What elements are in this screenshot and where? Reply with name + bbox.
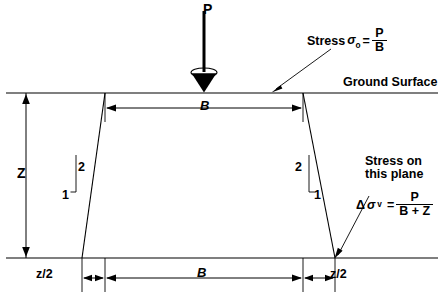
stress-distribution-figure: P Stress σo = P B Ground Surface B Z 2 1… <box>0 0 444 297</box>
dimension-arrow-zhalf-right-start <box>304 275 313 282</box>
stress-on-plane-annotation: Stress on this plane <box>365 155 423 181</box>
leader-arrowhead-stress-sigma <box>272 85 283 92</box>
equals-sign-sigma: = <box>363 35 370 48</box>
sigma-denominator: B <box>372 41 387 54</box>
dimension-label-b-top: B <box>200 99 209 113</box>
sigma-symbol: σo <box>347 34 360 50</box>
slope-triangle-right <box>309 155 315 192</box>
spread-line-left <box>82 93 105 258</box>
equals-sign-delta: = <box>384 199 394 212</box>
dimension-label-zhalf-left: z/2 <box>36 268 53 281</box>
dimension-arrow-b-top-right <box>292 104 302 111</box>
dimension-arrow-zhalf-left-end <box>95 275 104 282</box>
slope-label-right-horizontal: 1 <box>314 189 321 202</box>
delta-denominator: B + Z <box>396 205 433 218</box>
sigma-subscript: o <box>356 40 361 49</box>
slope-triangle-left <box>71 155 77 192</box>
dimension-arrow-b-top-left <box>106 104 116 111</box>
slope-label-left-vertical: 2 <box>78 161 85 174</box>
delta-fraction: P B + Z <box>396 191 433 218</box>
dimension-label-zhalf-right: z/2 <box>330 268 347 281</box>
dimension-arrow-b-bottom-right <box>292 275 302 282</box>
delta-numerator: P <box>396 191 433 205</box>
stress-sigma-o-annotation: Stress σo = P B <box>307 28 387 55</box>
delta-symbol: Δ <box>356 199 365 212</box>
slope-label-left-horizontal: 1 <box>62 189 69 202</box>
load-label-p: P <box>203 2 212 17</box>
slope-label-right-vertical: 2 <box>295 161 302 174</box>
sigma-numerator: P <box>372 27 387 41</box>
dimension-arrow-z-top <box>22 94 30 104</box>
dimension-arrow-zhalf-left-start <box>83 275 92 282</box>
delta-sigma-symbol: σ <box>367 199 375 212</box>
delta-sigma-subscript: v <box>377 201 382 210</box>
sigma-fraction: P B <box>372 27 387 54</box>
dimension-label-depth-z: Z <box>17 166 26 181</box>
load-arrow-cone-head <box>192 73 217 92</box>
dimension-arrow-z-bottom <box>22 247 30 257</box>
stress-on-plane-line-2: this plane <box>365 168 423 181</box>
dimension-label-b-bottom: B <box>197 266 206 280</box>
stress-word: Stress <box>307 35 345 48</box>
ground-surface-label: Ground Surface <box>343 76 437 89</box>
delta-sigma-v-equation: Δσv = P B + Z <box>356 192 433 219</box>
spread-line-right <box>303 93 335 258</box>
dimension-arrow-b-bottom-left <box>106 275 116 282</box>
